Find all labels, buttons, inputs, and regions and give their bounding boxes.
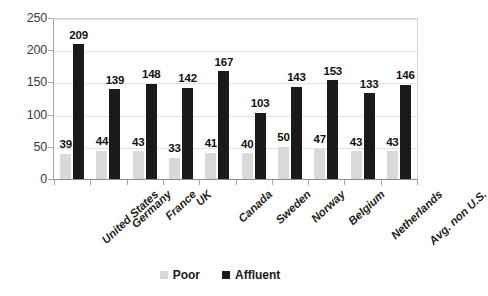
x-tick-mark bbox=[236, 180, 237, 185]
x-tick-mark bbox=[417, 180, 418, 185]
data-label-affluent: 148 bbox=[138, 69, 165, 81]
bar-group: 43148 bbox=[127, 18, 163, 179]
bar-poor bbox=[96, 151, 107, 179]
x-axis-label: Sweden bbox=[273, 188, 313, 226]
data-label-affluent: 142 bbox=[174, 73, 201, 85]
bar-group: 39209 bbox=[54, 18, 90, 179]
x-tick-mark bbox=[344, 180, 345, 185]
x-tick-mark bbox=[127, 180, 128, 185]
bar-affluent bbox=[109, 89, 120, 179]
bar-group: 47153 bbox=[308, 18, 344, 179]
bar-poor bbox=[314, 149, 325, 179]
x-tick-mark bbox=[308, 180, 309, 185]
bar-affluent bbox=[218, 71, 229, 179]
bar-affluent bbox=[291, 87, 302, 179]
x-tick-mark bbox=[199, 180, 200, 185]
bar-affluent bbox=[327, 80, 338, 179]
data-label-affluent: 209 bbox=[65, 30, 92, 42]
bar-group: 33142 bbox=[163, 18, 199, 179]
bar-affluent bbox=[146, 84, 157, 179]
y-tick-label: 200 bbox=[0, 44, 47, 57]
x-axis-label: Canada bbox=[236, 188, 274, 225]
legend-swatch-icon bbox=[222, 271, 230, 279]
bars-layer: 3920944139431483314241167401035014347153… bbox=[54, 18, 417, 179]
bar-poor bbox=[60, 154, 71, 179]
legend-item[interactable]: Affluent bbox=[222, 269, 280, 281]
chart-legend: PoorAffluent bbox=[0, 266, 440, 284]
data-label-affluent: 133 bbox=[356, 79, 383, 91]
y-tick-label: 250 bbox=[0, 12, 47, 25]
y-tick-label: 150 bbox=[0, 76, 47, 89]
bar-group: 41167 bbox=[199, 18, 235, 179]
data-label-affluent: 103 bbox=[247, 98, 274, 110]
bar-group: 50143 bbox=[272, 18, 308, 179]
bar-poor bbox=[205, 153, 216, 179]
legend-item[interactable]: Poor bbox=[160, 269, 200, 281]
y-tick-label: 50 bbox=[0, 141, 47, 154]
data-label-affluent: 146 bbox=[392, 70, 419, 82]
bar-poor bbox=[169, 158, 180, 179]
bar-group: 40103 bbox=[236, 18, 272, 179]
x-axis-label: Belgium bbox=[346, 188, 387, 227]
x-tick-mark bbox=[163, 180, 164, 185]
bar-affluent bbox=[364, 93, 375, 179]
y-tick-label: 100 bbox=[0, 109, 47, 122]
x-axis-ticks bbox=[54, 180, 417, 185]
bar-poor bbox=[387, 151, 398, 179]
bar-group: 43146 bbox=[381, 18, 417, 179]
bar-group: 43133 bbox=[344, 18, 380, 179]
y-tick-label: 0 bbox=[0, 173, 47, 186]
bar-poor bbox=[242, 153, 253, 179]
x-tick-mark bbox=[54, 180, 55, 185]
bar-poor bbox=[133, 151, 144, 179]
x-axis-label: UK bbox=[193, 188, 213, 208]
bar-affluent bbox=[255, 113, 266, 179]
data-label-affluent: 139 bbox=[101, 75, 128, 87]
data-label-affluent: 153 bbox=[319, 66, 346, 78]
bar-affluent bbox=[73, 44, 84, 179]
legend-swatch-icon bbox=[160, 271, 168, 279]
legend-label: Poor bbox=[173, 269, 200, 281]
bar-poor bbox=[278, 147, 289, 179]
bar-affluent bbox=[400, 85, 411, 179]
legend-label: Affluent bbox=[235, 269, 280, 281]
x-tick-mark bbox=[90, 180, 91, 185]
bar-affluent bbox=[182, 88, 193, 179]
x-tick-mark bbox=[272, 180, 273, 185]
x-axis-labels: United StatesGermanyFranceUKCanadaSweden… bbox=[0, 186, 440, 258]
x-axis-label: Norway bbox=[309, 188, 347, 225]
x-tick-mark bbox=[381, 180, 382, 185]
bar-group: 44139 bbox=[90, 18, 126, 179]
bar-poor bbox=[351, 151, 362, 179]
data-label-affluent: 167 bbox=[210, 57, 237, 69]
data-label-affluent: 143 bbox=[283, 72, 310, 84]
